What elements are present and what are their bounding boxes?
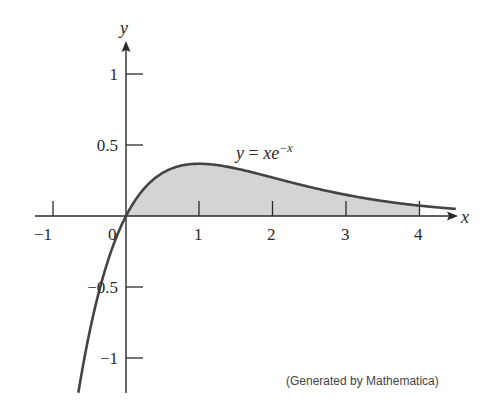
x-tick-label: 0 [108, 225, 117, 244]
x-tick-label: −1 [34, 225, 52, 244]
x-tick-label: 4 [414, 225, 423, 244]
x-tick-label: 3 [341, 225, 350, 244]
x-tick-label: 1 [194, 225, 203, 244]
y-tick-label: −0.5 [87, 278, 118, 297]
x-tick-label: 2 [267, 225, 276, 244]
y-tick-label: −1 [100, 349, 118, 368]
y-tick-label: 1 [110, 65, 119, 84]
plot-area: −1 0 1 2 3 4 1 0.5 −0.5 −1 y x y = xe−x [0, 0, 493, 406]
credit-text: (Generated by Mathematica) [286, 374, 439, 388]
x-axis-label: x [460, 207, 469, 227]
y-tick-label: 0.5 [97, 136, 118, 155]
y-axis-label: y [118, 18, 128, 38]
equation-annotation: y = xe−x [234, 141, 293, 163]
